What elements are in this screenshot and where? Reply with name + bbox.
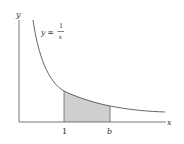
equation-label: y = 1 x [40, 22, 64, 41]
x-tick-b: b [107, 127, 112, 136]
y-axis-label: y [15, 10, 21, 19]
x-axis-label: x [167, 118, 172, 127]
shaded-area [64, 91, 110, 122]
equation-denominator: x [59, 33, 63, 41]
chart-canvas: y x 1 b y = 1 x [0, 0, 184, 144]
x-tick-1: 1 [62, 127, 67, 136]
equation-numerator: 1 [59, 22, 63, 30]
equation-lhs: y = [40, 28, 54, 37]
